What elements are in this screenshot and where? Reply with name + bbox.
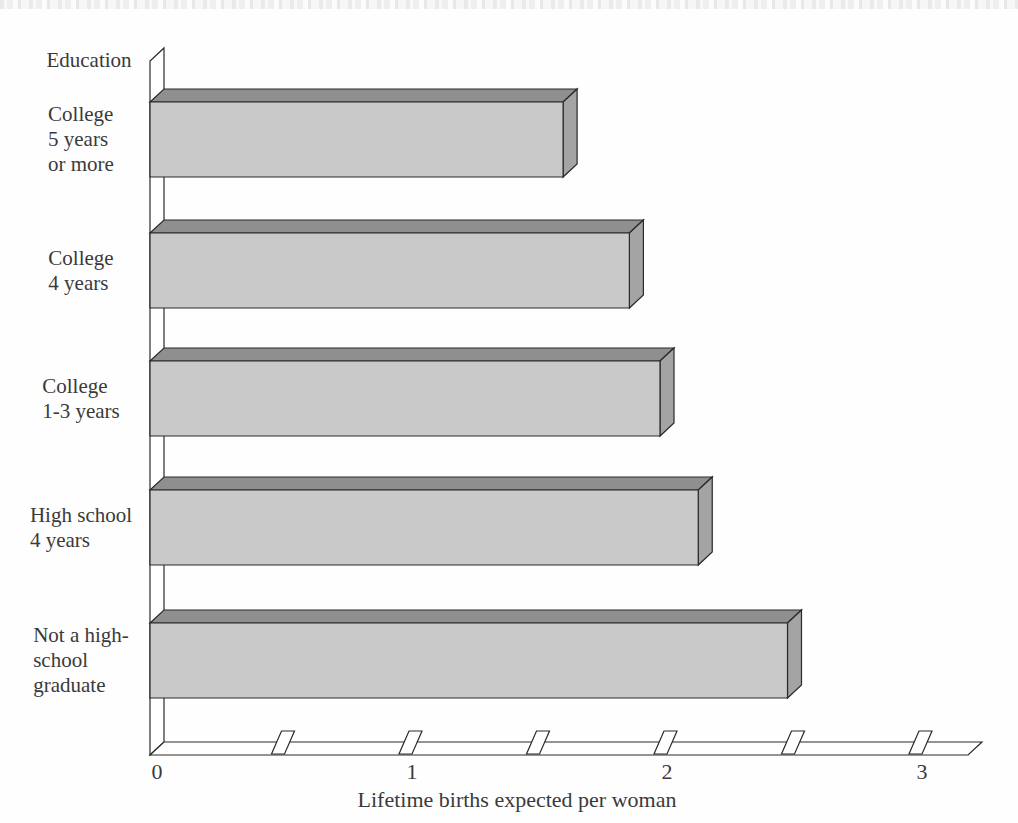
bar-chart-graphic [0, 0, 1018, 823]
category-label-college-5-years-or-more: College5 yearsor more [18, 102, 144, 177]
category-label-line: High school [30, 503, 132, 528]
category-label-line: or more [48, 152, 114, 177]
category-label-line: College [48, 102, 114, 127]
bar-top-face [150, 610, 802, 623]
bar-end-face [629, 220, 643, 308]
category-label-line: school [33, 648, 129, 673]
bar-front-face [150, 233, 629, 308]
category-label-line: Not a high- [33, 623, 129, 648]
x-tick-label-0: 0 [127, 759, 187, 785]
category-label-college-4-years: College4 years [18, 233, 144, 308]
category-label-line: 4 years [30, 528, 132, 553]
bar-end-face [698, 477, 712, 565]
bar-college-5-years-or-more [150, 89, 577, 177]
bar-end-face [788, 610, 802, 698]
x-tick-label-2: 2 [637, 759, 697, 785]
bar-front-face [150, 102, 563, 177]
bar-front-face [150, 623, 788, 698]
figure-canvas: Education College5 yearsor moreCollege4 … [0, 0, 1018, 823]
bar-top-face [150, 477, 712, 490]
bar-college-4-years [150, 220, 643, 308]
category-label-line: 4 years [48, 271, 113, 296]
category-label-line: 1-3 years [42, 399, 120, 424]
bar-end-face [660, 348, 674, 436]
x-tick-label-1: 1 [382, 759, 442, 785]
bar-not-a-high-school-graduate [150, 610, 802, 698]
category-label-high-school-4-years: High school4 years [18, 490, 144, 565]
x-axis-title: Lifetime births expected per woman [317, 787, 717, 813]
category-label-college-1-3-years: College1-3 years [18, 361, 144, 436]
category-label-line: College [48, 246, 113, 271]
category-label-line: graduate [33, 673, 129, 698]
bar-high-school-4-years [150, 477, 712, 565]
bar-top-face [150, 348, 674, 361]
category-label-line: 5 years [48, 127, 114, 152]
x-tick-label-3: 3 [892, 759, 952, 785]
bar-top-face [150, 220, 643, 233]
bar-front-face [150, 490, 698, 565]
category-label-not-a-high-school-graduate: Not a high-schoolgraduate [18, 623, 144, 698]
bar-top-face [150, 89, 577, 102]
category-label-line: College [42, 374, 120, 399]
bar-college-1-3-years [150, 348, 674, 436]
y-axis-title: Education [36, 48, 142, 73]
bar-front-face [150, 361, 660, 436]
bar-end-face [563, 89, 577, 177]
